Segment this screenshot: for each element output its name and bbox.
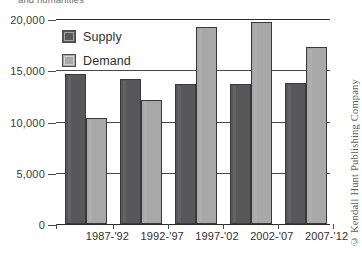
- bar-demand: [306, 47, 327, 224]
- legend-label: Demand: [83, 54, 131, 68]
- gridline-0: 0: [56, 224, 330, 225]
- bar-supply: [175, 84, 196, 224]
- bar-supply: [230, 84, 251, 224]
- bar-demand: [251, 22, 272, 224]
- bar-demand: [141, 100, 162, 224]
- x-axis-origin-tick: [56, 224, 57, 229]
- bar-demand: [86, 118, 107, 224]
- x-tick-mark: [278, 224, 279, 229]
- x-tick-mark: [333, 224, 334, 229]
- bar-group: 1997-'02: [175, 19, 217, 224]
- chart-legend: SupplyDemand: [62, 26, 131, 74]
- bar-supply: [65, 74, 86, 224]
- legend-item-supply: Supply: [62, 26, 131, 47]
- legend-item-demand: Demand: [62, 50, 131, 71]
- x-tick-mark: [113, 224, 114, 229]
- y-tick-mark-10000: [48, 123, 56, 124]
- y-tick-mark-5000: [48, 174, 56, 175]
- square-swatch-icon: [62, 54, 76, 67]
- y-axis-label-15000: 15,000: [10, 65, 45, 77]
- bar-group: 2002-'07: [230, 19, 272, 224]
- bar-demand: [196, 27, 217, 224]
- bar-supply: [285, 83, 306, 224]
- x-tick-mark: [168, 224, 169, 229]
- publisher-credit: © Kendall Hunt Publishing Company: [349, 79, 360, 247]
- legend-label: Supply: [83, 30, 122, 44]
- y-axis-label-10000: 10,000: [10, 117, 45, 129]
- bar-supply: [120, 79, 141, 224]
- y-tick-mark-15000: [48, 71, 56, 72]
- bar-group: 2007-'12: [285, 19, 327, 224]
- y-tick-mark-0: [48, 225, 56, 226]
- bar-chart: 05,00010,00015,00020,0001987-'921992-'97…: [0, 0, 362, 253]
- y-axis-label-0: 0: [39, 219, 45, 231]
- x-tick-mark: [223, 224, 224, 229]
- y-tick-mark-20000: [48, 20, 56, 21]
- y-axis-label-5000: 5,000: [16, 168, 45, 180]
- square-swatch-icon: [62, 30, 76, 43]
- y-axis-label-20000: 20,000: [10, 14, 45, 26]
